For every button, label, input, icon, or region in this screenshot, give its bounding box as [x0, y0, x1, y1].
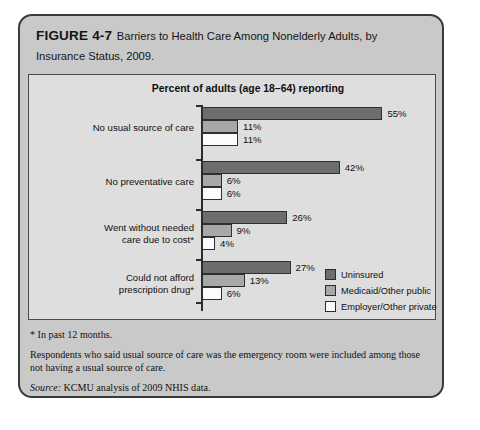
bar — [202, 107, 382, 120]
bar-value-label: 6% — [227, 287, 241, 300]
chart-container: Percent of adults (age 18–64) reporting … — [28, 74, 436, 320]
bar — [202, 161, 340, 174]
bar-value-label: 27% — [296, 261, 315, 274]
bar-value-label: 13% — [250, 274, 269, 287]
chart-title: Percent of adults (age 18–64) reporting — [29, 83, 435, 94]
bar-row: 11% — [202, 120, 432, 133]
source-text: KCMU analysis of 2009 NHIS data. — [61, 382, 210, 393]
bar-value-label: 55% — [387, 107, 406, 120]
bar-row: 9% — [202, 224, 432, 237]
bar-value-label: 6% — [227, 174, 241, 187]
bar — [202, 237, 215, 250]
bar-row: 42% — [202, 161, 432, 174]
figure-notes: * In past 12 months. Respondents who sai… — [30, 328, 434, 394]
category-label-line: care due to cost* — [44, 234, 194, 246]
methodology-note: Respondents who said usual source of car… — [30, 348, 434, 375]
category-label: Went without neededcare due to cost* — [44, 222, 194, 245]
category-label-line: Went without needed — [44, 222, 194, 234]
bar — [202, 261, 291, 274]
bar — [202, 287, 222, 300]
category-label-line: No preventative care — [44, 176, 194, 188]
bar — [202, 120, 238, 133]
legend-item-uninsured: Uninsured — [325, 269, 445, 280]
bar-value-label: 11% — [243, 133, 262, 146]
legend-swatch-icon-medicaid-other-public — [325, 285, 336, 296]
source-note: Source: KCMU analysis of 2009 NHIS data. — [30, 381, 434, 395]
figure-page: FIGURE 4-7 Barriers to Health Care Among… — [0, 0, 480, 430]
bar-value-label: 6% — [227, 187, 241, 200]
bar — [202, 211, 287, 224]
bar-value-label: 42% — [345, 161, 364, 174]
footnote: * In past 12 months. — [30, 328, 434, 342]
bar-value-label: 11% — [243, 120, 262, 133]
legend-swatch-icon-employer-other-private — [325, 301, 336, 312]
source-label: Source: — [30, 382, 61, 393]
bar-row: 55% — [202, 107, 432, 120]
figure-header: FIGURE 4-7 Barriers to Health Care Among… — [20, 16, 442, 70]
bar-row: 6% — [202, 174, 432, 187]
legend-label-uninsured: Uninsured — [341, 270, 383, 280]
axis-tick — [196, 302, 202, 304]
chart-plot-area: No usual source of care55%11%11%No preve… — [29, 103, 437, 315]
figure-frame: FIGURE 4-7 Barriers to Health Care Among… — [18, 14, 444, 398]
figure-number: FIGURE 4-7 — [36, 28, 112, 43]
bar — [202, 187, 222, 200]
category-label: No preventative care — [44, 176, 194, 188]
bar-row: 26% — [202, 211, 432, 224]
bar — [202, 274, 245, 287]
category-label-line: No usual source of care — [44, 122, 194, 134]
legend-item-employer-other-private: Employer/Other private — [325, 301, 445, 312]
legend-item-medicaid-other-public: Medicaid/Other public — [325, 285, 445, 296]
chart-legend: Uninsured Medicaid/Other public Employer… — [325, 269, 445, 317]
legend-label-employer-other-private: Employer/Other private — [341, 302, 437, 312]
bar — [202, 133, 238, 146]
bar-value-label: 4% — [220, 237, 234, 250]
bar-value-label: 26% — [292, 211, 311, 224]
bar-row: 4% — [202, 237, 432, 250]
bar-row: 6% — [202, 187, 432, 200]
legend-swatch-icon-uninsured — [325, 269, 336, 280]
category-label: No usual source of care — [44, 122, 194, 134]
bar-value-label: 9% — [237, 224, 251, 237]
bar — [202, 224, 232, 237]
bar — [202, 174, 222, 187]
legend-label-medicaid-other-public: Medicaid/Other public — [341, 286, 431, 296]
category-label-line: Could not afford — [44, 272, 194, 284]
bar-row: 11% — [202, 133, 432, 146]
category-label-line: prescription drug* — [44, 284, 194, 296]
category-label: Could not affordprescription drug* — [44, 272, 194, 295]
